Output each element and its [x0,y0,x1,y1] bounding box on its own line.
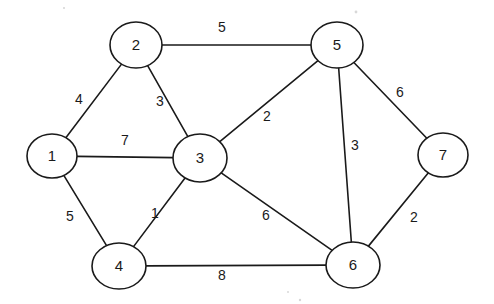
node-circle[interactable] [92,243,146,289]
graph-node-2[interactable]: 2 [110,22,162,68]
graph-node-4[interactable]: 4 [92,243,146,289]
graph-node-3[interactable]: 3 [173,134,227,182]
graph-diagram: 543276351628 1234567 [0,0,494,304]
graph-node-6[interactable]: 6 [326,242,380,288]
node-circle[interactable] [173,134,227,182]
node-circle[interactable] [311,22,363,68]
node-circle[interactable] [110,22,162,68]
node-circle[interactable] [27,134,77,178]
graph-node-5[interactable]: 5 [311,22,363,68]
graph-edge [146,265,326,266]
graph-node-7[interactable]: 7 [418,133,468,177]
graph-node-1[interactable]: 1 [27,134,77,178]
node-circle[interactable] [418,133,468,177]
node-circle[interactable] [326,242,380,288]
